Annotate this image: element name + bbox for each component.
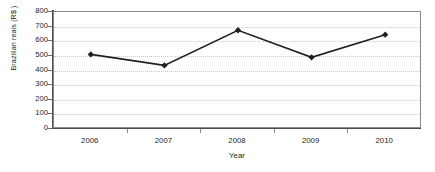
y-axis-tick-label: 100 — [22, 109, 48, 117]
y-axis-tick-mark — [47, 99, 52, 100]
y-axis-tick-label: 300 — [22, 80, 48, 88]
line-chart-figure: Brazilian reais (R$ ) 010020030040050060… — [0, 0, 435, 172]
x-axis-tick-label: 2009 — [291, 136, 331, 146]
y-axis-tick-mark — [47, 128, 52, 129]
y-axis-tick-mark — [47, 70, 52, 71]
y-axis-tick-label: 500 — [22, 51, 48, 59]
y-axis-tick-mark — [47, 26, 52, 27]
data-point-marker — [308, 54, 314, 60]
x-axis-tick-mark — [127, 129, 128, 133]
y-axis-tick-label: 800 — [22, 7, 48, 15]
y-axis-tick-label: 700 — [22, 22, 48, 30]
y-axis-tick-mark — [47, 11, 52, 12]
plot-area — [53, 11, 421, 128]
data-point-marker — [235, 27, 241, 33]
x-axis-tick-label: 2010 — [364, 136, 404, 146]
y-axis-tick-mark — [47, 55, 52, 56]
series-line — [91, 30, 385, 65]
x-axis-tick-labels: 20062007200820092010 — [53, 136, 421, 148]
x-axis-tick-mark — [200, 129, 201, 133]
y-axis-tick-label: 200 — [22, 95, 48, 103]
y-axis-tick-mark — [47, 84, 52, 85]
y-axis-tick-mark — [47, 40, 52, 41]
y-axis-title: Brazilian reais (R$ ) — [7, 0, 21, 93]
x-axis-tick-label: 2007 — [143, 136, 183, 146]
x-axis-tick-label: 2008 — [217, 136, 257, 146]
data-series-line — [54, 12, 421, 128]
data-point-marker — [382, 31, 388, 37]
data-point-marker — [88, 51, 94, 57]
x-axis-tick-label: 2006 — [70, 136, 110, 146]
x-axis-tick-marks — [53, 129, 421, 134]
x-axis-title: Year — [53, 151, 421, 161]
x-axis-tick-mark — [274, 129, 275, 133]
data-point-marker — [161, 62, 167, 68]
y-axis-tick-mark — [47, 113, 52, 114]
y-axis-tick-label: 600 — [22, 36, 48, 44]
y-axis-tick-label: 0 — [22, 124, 48, 132]
y-axis-tick-label: 400 — [22, 66, 48, 74]
x-axis-tick-mark — [347, 129, 348, 133]
y-axis-tick-labels: 0100200300400500600700800 — [22, 7, 48, 131]
